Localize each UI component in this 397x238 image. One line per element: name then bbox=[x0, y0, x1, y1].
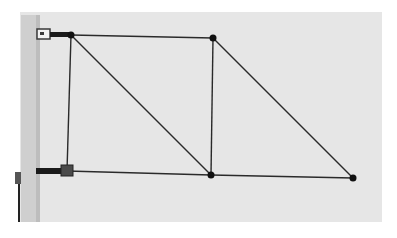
joint-A bbox=[68, 32, 75, 39]
joint-E bbox=[350, 175, 357, 182]
top-support-arm bbox=[50, 32, 70, 37]
truss-photo bbox=[0, 0, 397, 238]
wall-clamp-rod bbox=[18, 184, 20, 222]
joint-B bbox=[210, 35, 217, 42]
top-bracket-pin bbox=[40, 32, 44, 35]
bottom-bracket bbox=[61, 165, 73, 176]
wall-post-shadow bbox=[36, 15, 40, 222]
bottom-support-arm bbox=[36, 168, 64, 174]
joint-D bbox=[208, 172, 215, 179]
backdrop-panel bbox=[20, 12, 382, 222]
wall-clamp bbox=[15, 172, 21, 184]
